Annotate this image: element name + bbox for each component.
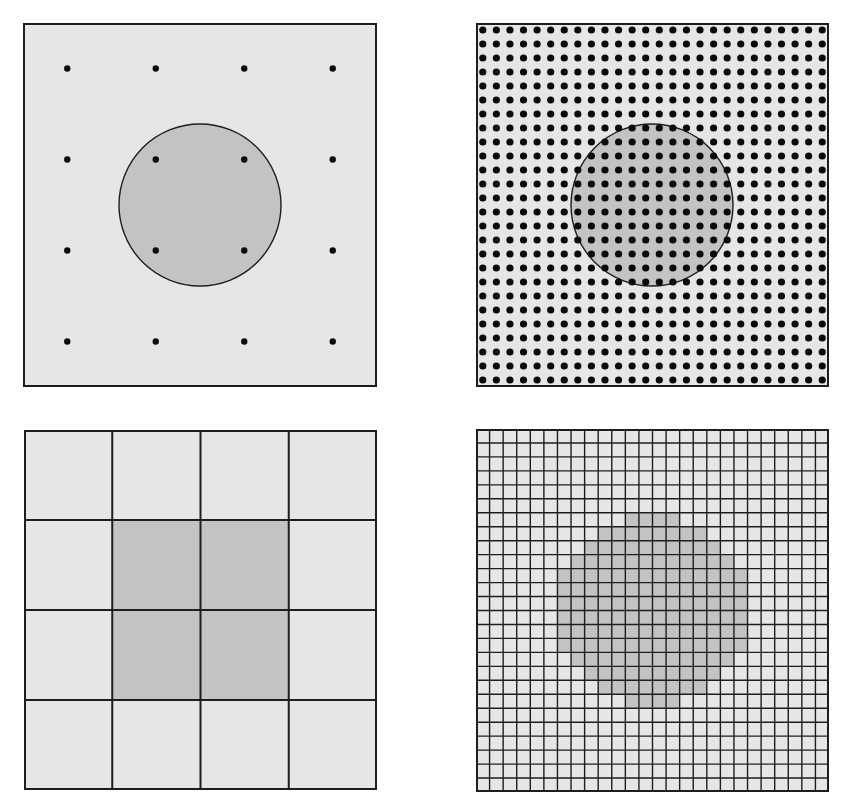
sample-point [737, 348, 744, 355]
sample-point [520, 194, 527, 201]
sample-point [764, 208, 771, 215]
sample-point [588, 362, 595, 369]
sample-point [764, 334, 771, 341]
sample-point [574, 138, 581, 145]
sample-point [642, 362, 649, 369]
sample-point [615, 68, 622, 75]
sample-point [751, 376, 758, 383]
sample-point [479, 180, 486, 187]
sample-point [533, 124, 540, 131]
sample-point [629, 96, 636, 103]
sample-point [764, 250, 771, 257]
sample-point [791, 264, 798, 271]
sample-point [506, 166, 513, 173]
sample-point [588, 194, 595, 201]
sample-point [669, 180, 676, 187]
sample-point [561, 348, 568, 355]
sample-point [724, 264, 731, 271]
sample-point [479, 348, 486, 355]
sample-point [696, 180, 703, 187]
sample-point [642, 152, 649, 159]
sample-point [629, 222, 636, 229]
sample-point [493, 68, 500, 75]
sample-point [710, 278, 717, 285]
sample-point [751, 306, 758, 313]
sample-point [669, 306, 676, 313]
sample-point [479, 362, 486, 369]
sample-point [506, 222, 513, 229]
sample-point [533, 250, 540, 257]
sample-point [805, 264, 812, 271]
sample-point [791, 96, 798, 103]
sample-point [642, 124, 649, 131]
sample-point [561, 292, 568, 299]
sample-point [506, 278, 513, 285]
sample-point [669, 250, 676, 257]
sample-point [710, 26, 717, 33]
sample-point [642, 278, 649, 285]
sample-point [778, 208, 785, 215]
sample-point [656, 348, 663, 355]
sample-point [506, 292, 513, 299]
sample-point [642, 138, 649, 145]
sample-point [642, 320, 649, 327]
sample-point [724, 124, 731, 131]
sample-point [819, 222, 826, 229]
sample-point [778, 334, 785, 341]
sample-point [588, 222, 595, 229]
sample-point [574, 124, 581, 131]
sample-point [778, 54, 785, 61]
sample-point [778, 180, 785, 187]
sample-point [479, 292, 486, 299]
sample-point [601, 124, 608, 131]
sample-point [683, 250, 690, 257]
sample-point [588, 236, 595, 243]
sample-point [778, 236, 785, 243]
sample-point [819, 40, 826, 47]
sample-point [737, 362, 744, 369]
sample-point [574, 334, 581, 341]
sample-point [751, 124, 758, 131]
sample-point [696, 152, 703, 159]
sample-point [520, 320, 527, 327]
sample-point [642, 194, 649, 201]
sample-point [479, 40, 486, 47]
sample-point [601, 376, 608, 383]
circle-shape [571, 124, 733, 286]
sample-point [506, 152, 513, 159]
sample-point [724, 96, 731, 103]
sample-point [493, 348, 500, 355]
sample-point [561, 362, 568, 369]
sample-point [601, 334, 608, 341]
sample-point [737, 250, 744, 257]
sample-point [615, 54, 622, 61]
sample-point [629, 166, 636, 173]
sample-point [805, 138, 812, 145]
sample-point [669, 82, 676, 89]
sample-point [805, 96, 812, 103]
sample-point [588, 54, 595, 61]
sample-point [805, 320, 812, 327]
sample-point [737, 278, 744, 285]
sample-point [629, 194, 636, 201]
sample-point [751, 292, 758, 299]
sample-point [805, 194, 812, 201]
sample-point [710, 96, 717, 103]
sample-point [819, 306, 826, 313]
panel-coarse-point-sampling [23, 23, 377, 387]
sample-point [669, 292, 676, 299]
fine-pixel-grid-graphic [476, 429, 829, 792]
sample-point [547, 236, 554, 243]
sample-point [520, 362, 527, 369]
sample-point [574, 152, 581, 159]
sample-point [656, 26, 663, 33]
sample-point [764, 54, 771, 61]
sample-point [683, 222, 690, 229]
sample-point [629, 292, 636, 299]
sample-point [533, 194, 540, 201]
sample-point [615, 306, 622, 313]
sample-point [696, 26, 703, 33]
sample-point [669, 68, 676, 75]
sample-point [710, 376, 717, 383]
sample-point [547, 54, 554, 61]
